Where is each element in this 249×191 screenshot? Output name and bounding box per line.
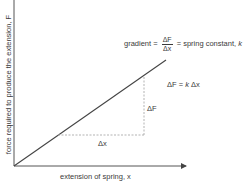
delta-f-label: ΔF (147, 104, 157, 113)
fraction-denominator: Δx (163, 45, 171, 53)
y-axis-label: force required to produce the extension,… (4, 0, 13, 175)
spring-constant-symbol: k (238, 39, 242, 48)
hookes-law-equation: ΔF = k Δx (167, 80, 200, 89)
graph-canvas (0, 0, 249, 191)
equation-k: k (185, 80, 189, 89)
force-extension-line (14, 60, 166, 166)
fraction-numerator: ΔF (162, 36, 173, 45)
delta-x-label: Δx (98, 139, 107, 148)
gradient-fraction: ΔF Δx (162, 36, 173, 53)
gradient-prefix: gradient = (124, 39, 158, 48)
gradient-suffix: = spring constant, (177, 39, 236, 48)
gradient-label: gradient = ΔF Δx = spring constant, k (124, 36, 242, 53)
equation-lhs: ΔF = (167, 80, 183, 89)
equation-rhs: Δx (191, 80, 200, 89)
x-axis-label: extension of spring, x (60, 172, 131, 181)
